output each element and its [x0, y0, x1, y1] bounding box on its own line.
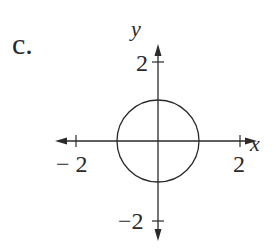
y-axis-label: y [129, 16, 141, 41]
x-tick-label-neg2: − 2 [56, 151, 88, 177]
y-tick-label-neg2: −2 [118, 208, 144, 234]
x-tick-label-pos2: 2 [233, 151, 245, 177]
x-axis-left-arrow-icon [55, 138, 67, 145]
x-axis-label: x [249, 131, 260, 156]
figure-c: c. y x − 2 2 2 −2 [0, 0, 273, 251]
y-axis-up-arrow-icon [155, 44, 162, 56]
panel-label: c. [12, 27, 33, 60]
y-axis-down-arrow-icon [155, 229, 162, 241]
coordinate-plot: c. y x − 2 2 2 −2 [0, 0, 273, 251]
y-tick-label-pos2: 2 [136, 50, 148, 76]
